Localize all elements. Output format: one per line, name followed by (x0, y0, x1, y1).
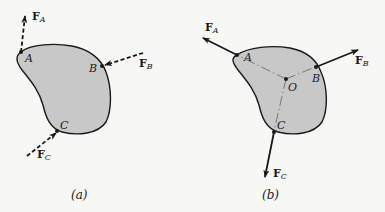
point-dot-b-b (314, 65, 318, 69)
force-label-fa: FA (32, 10, 46, 24)
point-dot-c-b (272, 130, 276, 134)
force-arrow-fa-b (203, 38, 237, 55)
force-label-fb: FB (139, 57, 153, 71)
force-arrow-fb-b (316, 50, 358, 67)
force-arrow-fb-a (105, 53, 143, 65)
force-label-fc: FC (37, 148, 51, 162)
point-dot-a-b (235, 53, 239, 57)
force-label-fa: FA (205, 21, 219, 35)
caption-a: (a) (71, 188, 88, 202)
point-dot-c-a (55, 129, 59, 133)
point-dot-a-a (19, 50, 23, 54)
diagram-b: A B C O FA FB FC (b) (203, 21, 369, 202)
point-label-o: O (288, 81, 297, 94)
point-label-c: C (60, 119, 69, 132)
force-label-fb: FB (355, 54, 369, 68)
point-label-c: C (277, 119, 286, 132)
figure-canvas: A B C FA FB FC (a) A B C O FA FB FC (b) (0, 0, 385, 212)
caption-b: (b) (262, 188, 279, 202)
force-label-fc: FC (273, 167, 287, 181)
force-arrow-fa-a (21, 16, 25, 52)
point-label-b: B (88, 62, 97, 75)
point-dot-b-a (100, 64, 104, 68)
point-label-b: B (311, 72, 320, 85)
point-label-a: A (24, 52, 33, 65)
diagram-a: A B C FA FB FC (a) (17, 10, 153, 202)
point-label-a: A (243, 51, 252, 64)
